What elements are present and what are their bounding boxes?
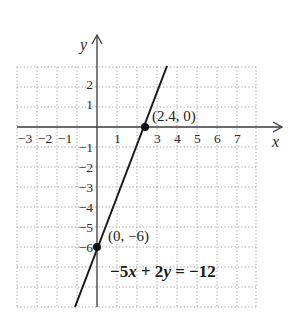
svg-text:1: 1: [86, 97, 93, 112]
svg-text:−6: −6: [79, 240, 94, 255]
x-axis-label: x: [271, 133, 279, 150]
svg-text:6: 6: [214, 131, 221, 146]
svg-text:−2: −2: [79, 160, 93, 175]
x-intercept-point: [141, 123, 149, 131]
svg-text:−5: −5: [79, 220, 94, 235]
y-axis-label: y: [78, 36, 88, 54]
y-tick-labels: 2 1 −1 −2 −3 −4 −5 −6: [79, 77, 94, 255]
svg-text:−3: −3: [79, 180, 94, 195]
svg-text:1: 1: [114, 131, 121, 146]
y-intercept-label: (0, −6): [108, 228, 149, 245]
svg-text:2: 2: [86, 77, 93, 92]
svg-text:−3: −3: [18, 131, 33, 146]
svg-text:4: 4: [174, 131, 181, 146]
x-intercept-label: (2.4, 0): [152, 108, 196, 125]
equation-label: −5x + 2y = −12: [110, 262, 216, 281]
svg-text:3: 3: [154, 131, 161, 146]
coordinate-graph: x y −3 −2 −1 1 3 4 5 6 7 2 1 −1 −2 −3 −4…: [0, 0, 290, 324]
svg-text:5: 5: [194, 131, 201, 146]
svg-text:−4: −4: [79, 200, 94, 215]
svg-text:7: 7: [234, 131, 241, 146]
svg-text:−1: −1: [79, 140, 93, 155]
svg-text:−1: −1: [58, 131, 72, 146]
y-intercept-point: [93, 243, 101, 251]
svg-text:−2: −2: [38, 131, 52, 146]
x-tick-labels: −3 −2 −1 1 3 4 5 6 7: [18, 131, 241, 146]
